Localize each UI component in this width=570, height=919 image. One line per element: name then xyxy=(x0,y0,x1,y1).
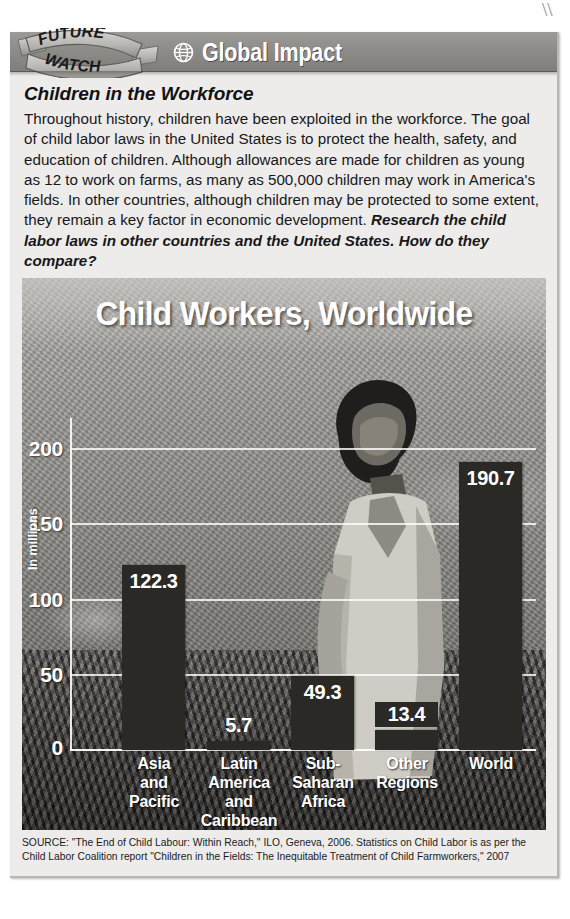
section-banner: FUTURE WATCH Global Impact xyxy=(10,32,557,72)
bar-value-asia-and-pacific: 122.3 xyxy=(122,570,185,593)
bar-latin-america-and-caribbean: 5.7 xyxy=(207,741,270,750)
category-label-latin-america-and-caribbean: Latin America and Caribbean xyxy=(194,754,284,830)
category-line: World xyxy=(451,754,531,773)
chart-title: Child Workers, Worldwide xyxy=(40,294,527,332)
chart-y-axis-line xyxy=(70,418,72,750)
category-line: Africa xyxy=(281,792,365,811)
bar-sub-saharan-africa: 49.3 xyxy=(291,676,354,750)
globe-icon xyxy=(173,42,194,63)
category-line: and xyxy=(114,773,194,792)
bar-value-latin-america-and-caribbean: 5.7 xyxy=(207,714,270,737)
category-line: Other xyxy=(365,754,449,773)
category-line: America xyxy=(194,773,284,792)
category-label-world: World xyxy=(451,754,531,773)
category-line: Saharan xyxy=(281,773,365,792)
category-label-asia-and-pacific: Asia and Pacific xyxy=(114,754,194,811)
category-line: Sub- xyxy=(281,754,365,773)
category-line: Caribbean xyxy=(194,811,284,830)
category-line: Latin xyxy=(194,754,284,773)
y-tick-label-0: 0 xyxy=(52,736,63,760)
article-copy: Children in the Workforce Throughout his… xyxy=(10,72,557,271)
y-tick-label-50: 50 xyxy=(40,663,63,687)
category-line: Regions xyxy=(365,773,449,792)
y-tick-label-100: 100 xyxy=(29,588,63,612)
chart-panel: Child Workers, Worldwide 200 150 100 50 … xyxy=(22,278,546,830)
page-corner-mark: \\ xyxy=(542,0,568,22)
banner-title: Global Impact xyxy=(202,38,342,66)
bar-value-world: 190.7 xyxy=(459,467,522,490)
article-card: FUTURE WATCH Global Impact Children in t… xyxy=(10,32,559,878)
category-label-other-regions: Other Regions xyxy=(365,754,449,792)
future-watch-logo: FUTURE WATCH xyxy=(16,28,164,78)
chart-y-axis-label: In millions xyxy=(26,508,40,570)
gridline-200 xyxy=(70,448,536,450)
article-paragraph: Throughout history, children have been e… xyxy=(24,109,543,271)
category-line: and xyxy=(194,792,284,811)
chart-plot-area: 200 150 100 50 0 In millions 122.3 5.7 4… xyxy=(70,418,536,750)
category-line: Pacific xyxy=(114,792,194,811)
category-line: Asia xyxy=(114,754,194,773)
source-note: SOURCE: "The End of Child Labour: Within… xyxy=(22,836,546,863)
article-heading: Children in the Workforce xyxy=(24,83,543,105)
bar-world: 190.7 xyxy=(459,462,522,750)
category-label-sub-saharan-africa: Sub- Saharan Africa xyxy=(281,754,365,811)
bar-value-other-regions: 13.4 xyxy=(375,702,438,727)
bar-asia-and-pacific: 122.3 xyxy=(122,565,185,750)
y-tick-label-200: 200 xyxy=(29,437,63,461)
bar-value-sub-saharan-africa: 49.3 xyxy=(291,681,354,704)
bar-other-regions: 13.4 xyxy=(375,730,438,750)
